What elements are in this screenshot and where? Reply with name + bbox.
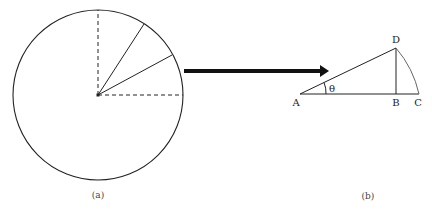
point-B-label: B (392, 97, 399, 108)
angle-arc (324, 83, 326, 95)
figure: (a) θ A B C D (b) (0, 0, 432, 212)
caption-a: (a) (92, 190, 104, 200)
point-C-label: C (414, 97, 422, 108)
arc-DC (396, 48, 419, 94)
arrow-head-icon (320, 65, 329, 77)
solid-radius-lower (98, 55, 172, 95)
caption-b: (b) (362, 191, 375, 201)
panel-a: (a) (13, 10, 183, 200)
magnify-arrow (184, 65, 329, 77)
panel-b: θ A B C D (b) (291, 34, 422, 201)
center-point (97, 94, 100, 97)
solid-radius-upper (98, 24, 144, 95)
point-D-label: D (392, 34, 400, 45)
angle-theta-label: θ (329, 83, 335, 94)
point-A-label: A (291, 97, 300, 108)
